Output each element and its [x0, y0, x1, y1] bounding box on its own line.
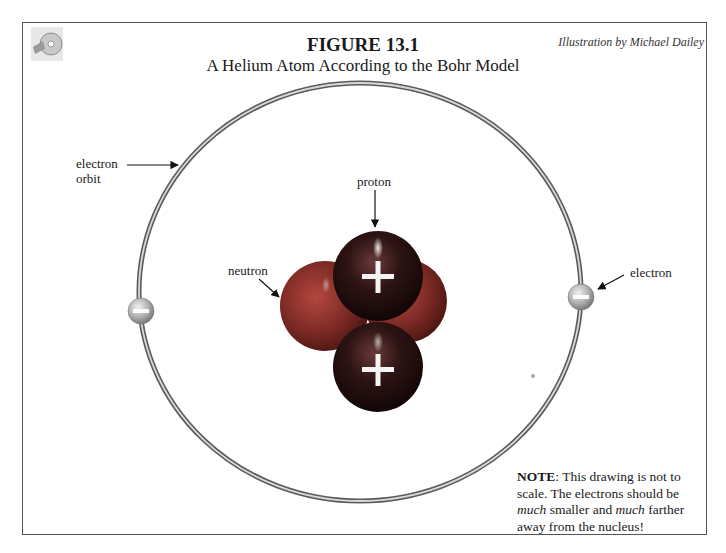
label-electron-orbit: electron orbit — [76, 156, 118, 186]
electron-left — [128, 298, 154, 324]
label-neutron: neutron — [228, 263, 268, 278]
note-lead: NOTE — [517, 469, 555, 484]
minus-icon — [573, 295, 589, 299]
note-emph-1: much — [517, 502, 546, 517]
note-text-2: smaller and — [546, 502, 615, 517]
electron-right — [568, 284, 594, 310]
proton-bottom — [333, 322, 423, 412]
arrow-neutron — [259, 279, 279, 297]
label-proton: proton — [357, 174, 391, 189]
proton-top — [333, 231, 423, 321]
label-electron-orbit-line1: electron — [76, 156, 118, 171]
scale-note: NOTE: This drawing is not to scale. The … — [517, 469, 707, 535]
speck — [531, 374, 535, 378]
note-emph-2: much — [616, 502, 645, 517]
label-electron-orbit-line2: orbit — [76, 171, 118, 186]
minus-icon — [133, 309, 149, 313]
label-electron: electron — [630, 265, 672, 280]
arrow-electron — [598, 275, 624, 289]
